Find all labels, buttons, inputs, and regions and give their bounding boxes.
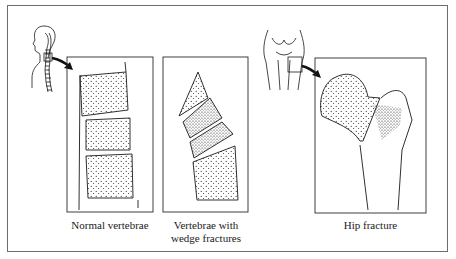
- hip-fracture-drawing: [321, 74, 412, 210]
- normal-vertebrae-drawing: [79, 62, 138, 210]
- pelvis-locator-icon: [264, 30, 304, 90]
- wedge-fracture-drawing: [179, 72, 238, 200]
- normal-vertebrae-caption: Normal vertebrae: [57, 219, 163, 231]
- wedge-fracture-caption-line1: Vertebrae with: [150, 219, 262, 231]
- wedge-fracture-caption-line2: wedge fractures: [150, 232, 262, 244]
- head-spine-locator-icon: [32, 26, 55, 92]
- hip-fracture-caption: Hip fracture: [315, 219, 426, 231]
